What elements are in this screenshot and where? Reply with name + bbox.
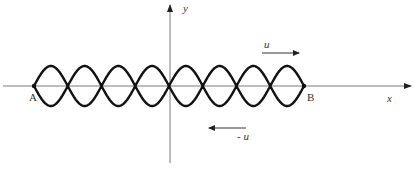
velocity-label-u: u: [264, 38, 270, 50]
wave-envelope-lower: [34, 86, 304, 106]
y-axis-label: y: [182, 2, 188, 14]
node-b-dot: [302, 84, 306, 88]
node-a-dot: [32, 84, 36, 88]
x-axis-label: x: [386, 92, 392, 104]
standing-wave-diagram: A B y x u - u: [0, 0, 415, 170]
velocity-label-minus-u: - u: [237, 130, 249, 142]
wave-envelope-upper: [34, 66, 304, 86]
endpoint-a-label: A: [29, 91, 37, 103]
endpoint-b-label: B: [307, 91, 314, 103]
